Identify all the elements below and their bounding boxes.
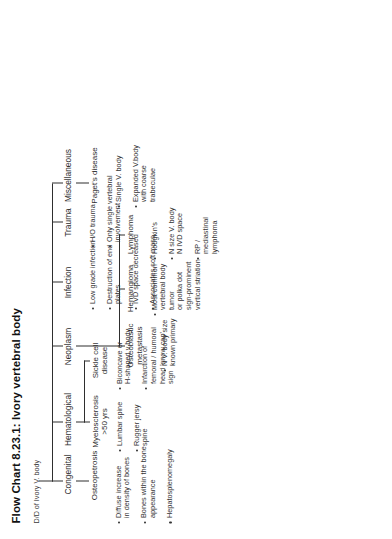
root-stem-connector: [39, 480, 53, 481]
hematological-split-connector: [84, 360, 85, 422]
branch-drop-hematological: [52, 421, 63, 422]
branch-drop-infection: [52, 281, 63, 282]
bullet-item: Associates soft mass: [149, 233, 158, 309]
bullets-myelosclerosis: Lumbar spine Rugger jersy spine: [107, 389, 159, 451]
bullets-pagets-disease: Single V. body Expanded V.body with coar…: [106, 141, 166, 207]
bullet-item: Lumbar spine: [116, 389, 125, 451]
bullet-item: Rugger jersy spine: [133, 389, 150, 451]
branch-drop-trauma: [52, 221, 63, 222]
root-node-label: D/D of Ivory V. body: [33, 459, 41, 523]
hematological-drop-sicklecell: [84, 360, 90, 361]
rotated-figure-frame: Flow Chart 8.23.1: Ivory vertebral body …: [0, 0, 392, 539]
branch-drop-miscellaneous: [52, 182, 63, 183]
node-pagets-disease: Paget's disease: [90, 141, 99, 209]
branch-label-infection: Infection: [64, 253, 74, 311]
neoplasm-stem-connector: [76, 345, 120, 346]
bullet-item: Hepatosplenomegaly: [166, 427, 175, 523]
main-spine-connector: [52, 183, 53, 481]
congenital-child-connector: [76, 480, 89, 481]
node-osteoblastic-metastasis: Osteoblastic metastasis: [126, 317, 145, 373]
branch-label-miscellaneous: Miscellaneous: [64, 139, 74, 211]
bullet-item: Expanded V.body with coarse trabeculae: [132, 141, 158, 207]
bullet-item: N V. body size known primary: [161, 313, 178, 371]
bullet-item: RP / mediastinal lymphoma: [194, 201, 220, 259]
branch-drop-neoplasm: [52, 345, 63, 346]
figure-title: Flow Chart 8.23.1: Ivory vertebral body: [10, 308, 24, 523]
bullets-osteoblastic-metastasis: N V. body size known primary: [152, 313, 186, 371]
branch-label-hematological: Hematological: [64, 383, 74, 455]
neoplasm-drop-osteoblastic: [119, 345, 125, 346]
bullet-item: Single V. body: [115, 141, 124, 207]
flowchart-canvas: Flow Chart 8.23.1: Ivory vertebral body …: [0, 0, 392, 539]
branch-label-neoplasm: Neoplasm: [64, 315, 74, 377]
bullet-item: IVD space decreased: [132, 233, 141, 309]
hematological-drop-myelosclerosis: [84, 421, 90, 422]
branch-drop-congenital: [52, 480, 63, 481]
miscellaneous-child-connector: [76, 182, 89, 183]
bullet-item: N size V. body N IVD space: [168, 201, 185, 259]
